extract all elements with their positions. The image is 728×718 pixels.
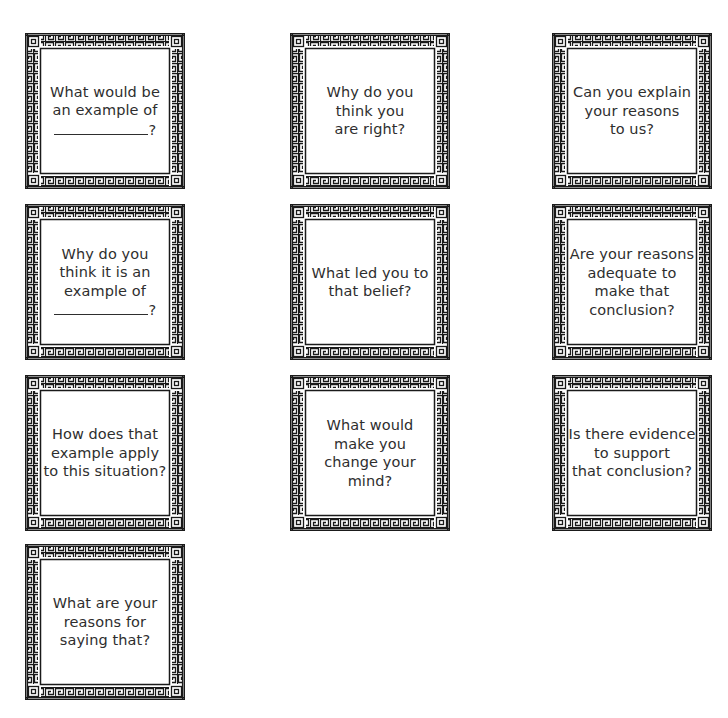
question-text: Why do youthink youare right? (308, 51, 432, 171)
fill-in-blank (54, 120, 148, 135)
question-line: Can you explain (573, 83, 691, 102)
question-card-9: Is there evidenceto supportthat conclusi… (552, 375, 712, 531)
question-text: Are your reasonsadequate tomake thatconc… (570, 222, 694, 342)
question-line: make that (595, 282, 670, 301)
question-line: your reasons (584, 102, 679, 121)
question-line: that conclusion? (572, 462, 692, 481)
question-mark: ? (149, 122, 157, 138)
question-text: What wouldmake youchange yourmind? (308, 393, 432, 513)
question-line: What would be (50, 83, 160, 102)
question-line: adequate to (587, 264, 676, 283)
question-line: Is there evidence (569, 425, 696, 444)
question-line: example of (64, 282, 146, 301)
question-line: an example of (53, 101, 158, 120)
fill-in-blank (54, 300, 148, 315)
question-text: How does thatexample applyto this situat… (43, 393, 167, 513)
question-line: ? (54, 300, 157, 320)
question-line: think it is an (59, 263, 150, 282)
question-line: What led you to (312, 264, 429, 283)
question-text: What led you tothat belief? (308, 222, 432, 342)
question-card-1: What would bean example of? (25, 33, 185, 189)
question-card-4: Why do youthink it is anexample of? (25, 204, 185, 360)
question-card-7: How does thatexample applyto this situat… (25, 375, 185, 531)
question-line: ? (54, 120, 157, 140)
question-line: saying that? (60, 631, 150, 650)
question-line: reasons for (64, 613, 146, 632)
question-text: Can you explainyour reasonsto us? (570, 51, 694, 171)
question-card-3: Can you explainyour reasonsto us? (552, 33, 712, 189)
question-mark: ? (149, 302, 157, 318)
question-text: Why do youthink it is anexample of? (43, 222, 167, 342)
question-card-6: Are your reasonsadequate tomake thatconc… (552, 204, 712, 360)
question-line: Why do you (61, 245, 148, 264)
question-card-10: What are yourreasons forsaying that? (25, 544, 185, 700)
question-line: What would (327, 416, 414, 435)
question-text: What would bean example of? (43, 51, 167, 171)
question-line: think you (336, 102, 405, 121)
question-line: What are your (53, 594, 158, 613)
question-card-2: Why do youthink youare right? (290, 33, 450, 189)
question-line: make you (334, 435, 406, 454)
question-line: that belief? (328, 282, 411, 301)
question-line: change your (324, 453, 416, 472)
question-line: to us? (610, 120, 654, 139)
question-line: How does that (52, 425, 158, 444)
question-line: mind? (348, 472, 393, 491)
question-line: to support (594, 444, 670, 463)
question-line: example apply (51, 444, 159, 463)
question-line: conclusion? (589, 301, 675, 320)
question-card-5: What led you tothat belief? (290, 204, 450, 360)
question-line: are right? (335, 120, 406, 139)
question-card-8: What wouldmake youchange yourmind? (290, 375, 450, 531)
question-text: What are yourreasons forsaying that? (43, 562, 167, 682)
question-line: Why do you (326, 83, 413, 102)
question-line: Are your reasons (570, 245, 695, 264)
question-text: Is there evidenceto supportthat conclusi… (570, 393, 694, 513)
question-line: to this situation? (44, 462, 167, 481)
